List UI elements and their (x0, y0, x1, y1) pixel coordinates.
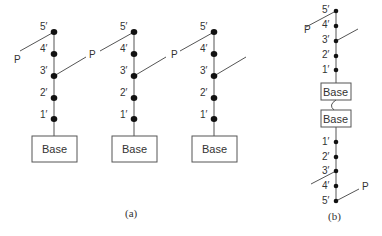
node-label: 4′ (322, 19, 330, 30)
diagram-canvas: 5′ 4′ 3′ 2′ 1′ P P Base 5′ 4′ 3′ 2′ 1′ B… (0, 0, 382, 236)
node-label: 3′ (200, 65, 208, 76)
node-label: 2′ (120, 87, 128, 98)
column-2-force-line-top (100, 32, 134, 51)
column-3-force-line-top (180, 32, 214, 51)
node-label: 1′ (40, 109, 48, 120)
node-dot (211, 29, 218, 35)
base-label: Base (323, 113, 348, 125)
node-label: 5′ (40, 21, 48, 32)
node-label: 3′ (322, 165, 330, 176)
base-label: Base (202, 143, 227, 155)
node-label: 5′ (322, 4, 330, 15)
node-label: 5′ (120, 21, 128, 32)
node-dot (211, 116, 218, 122)
node-dot (211, 51, 218, 57)
base-label: Base (323, 86, 348, 98)
node-dot (131, 95, 138, 101)
force-label: P (362, 181, 369, 192)
node-dot (334, 68, 339, 73)
node-label: 2′ (200, 87, 208, 98)
force-label: P (304, 24, 311, 35)
node-dot (334, 39, 339, 44)
node-label: 4′ (322, 180, 330, 191)
node-label: 4′ (120, 43, 128, 54)
node-label: 3′ (40, 65, 48, 76)
node-dot (131, 51, 138, 57)
node-dot (51, 51, 58, 57)
node-label: 3′ (120, 65, 128, 76)
node-dot (51, 29, 58, 35)
node-dot (334, 169, 339, 174)
node-dot (131, 116, 138, 122)
column-3-force-line-mid (214, 57, 246, 76)
node-dot (51, 116, 58, 122)
panel-b-force-line-upper-mid (336, 29, 358, 41)
node-label: 1′ (322, 136, 330, 147)
node-label: 1′ (200, 109, 208, 120)
node-dot (334, 199, 339, 204)
node-dot (334, 140, 339, 145)
node-dot (334, 24, 339, 29)
column-1-force-line-top (20, 32, 54, 51)
node-label: 4′ (40, 43, 48, 54)
node-label: 4′ (200, 43, 208, 54)
node-label: 5′ (200, 21, 208, 32)
caption-a: (a) (125, 207, 138, 220)
node-dot (211, 95, 218, 101)
node-dot (334, 9, 339, 14)
column-1-force-line-mid (54, 57, 86, 76)
panel-b-force-line-bottom (336, 189, 359, 201)
node-dot (211, 73, 218, 79)
caption-b: (b) (328, 210, 341, 223)
node-dot (334, 54, 339, 59)
node-dot (131, 29, 138, 35)
force-label: P (14, 54, 21, 65)
column-2-force-line-mid (134, 57, 166, 76)
base-label: Base (122, 143, 147, 155)
node-label: 2′ (40, 87, 48, 98)
node-dot (51, 95, 58, 101)
node-dot (131, 73, 138, 79)
node-label: 2′ (322, 49, 330, 60)
base-label: Base (42, 143, 67, 155)
force-label: P (171, 49, 178, 60)
node-dot (334, 184, 339, 189)
node-label: 5′ (322, 195, 330, 206)
node-label: 2′ (322, 151, 330, 162)
node-dot (51, 73, 58, 79)
force-label: P (89, 49, 96, 60)
node-dot (334, 155, 339, 160)
node-label: 3′ (322, 34, 330, 45)
node-label: 1′ (120, 109, 128, 120)
node-label: 1′ (322, 64, 330, 75)
panel-b-spring-link (331, 100, 336, 110)
